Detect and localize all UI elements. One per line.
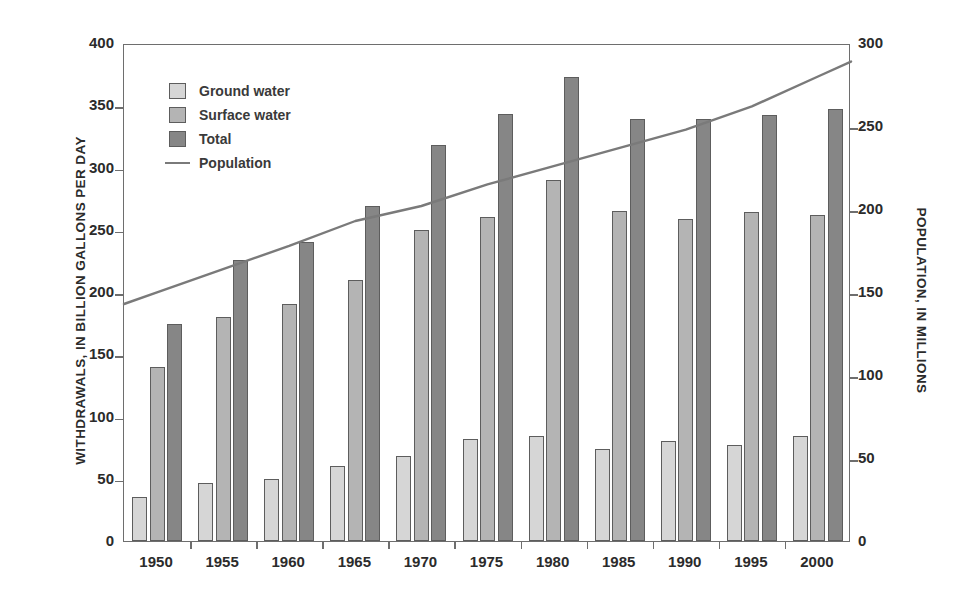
legend-label-total: Total [199,131,231,147]
y-axis-left-ticklabels: 050100150200250300350400 [68,0,114,602]
legend-item-surface-water: Surface water [169,105,291,125]
y-axis-left-tick-200: 200 [68,283,114,300]
y-axis-left-tick-300: 300 [68,159,114,176]
x-axis-tick-2000: 2000 [777,553,857,570]
y-axis-right-tick-200: 200 [858,200,904,217]
x-axis-tickmark [454,541,456,549]
y-axis-left-tickmark [115,356,124,358]
legend-swatch-total-icon [169,131,186,147]
y-axis-right-tick-250: 250 [858,117,904,134]
y-axis-right-tickmark [849,128,858,130]
y-axis-right-tickmark [849,377,858,379]
legend-item-ground-water: Ground water [169,81,291,101]
chart-legend: Ground water Surface water Total Populat… [169,81,291,173]
legend-item-total: Total [169,129,291,149]
legend-swatch-ground-water-icon [169,83,186,99]
x-axis-tickmark [388,541,390,549]
legend-label-population: Population [199,155,271,171]
legend-line-population-icon [169,155,186,171]
y-axis-left-tick-350: 350 [68,96,114,113]
y-axis-left-tick-50: 50 [68,470,114,487]
x-axis-tickmark [190,541,192,549]
legend-label-surface-water: Surface water [199,107,291,123]
y-axis-left-tickmark [115,419,124,421]
x-axis-tickmark [322,541,324,549]
y-axis-right-title: POPULATION, IN MILLIONS [914,66,929,536]
y-axis-left-tickmark [115,294,124,296]
y-axis-left-tickmark [115,232,124,234]
y-axis-right-tickmark [849,294,858,296]
y-axis-left-tickmark [115,107,124,109]
legend-label-ground-water: Ground water [199,83,290,99]
plot-area: Ground water Surface water Total Populat… [123,44,850,542]
y-axis-right-tick-300: 300 [858,34,904,51]
y-axis-right-tick-150: 150 [858,283,904,300]
legend-item-population: Population [169,153,291,173]
y-axis-left-tick-100: 100 [68,408,114,425]
x-axis-tickmark [587,541,589,549]
y-axis-left-tickmark [115,481,124,483]
y-axis-right-ticklabels: 050100150200250300 [858,0,904,602]
y-axis-right-tick-100: 100 [858,366,904,383]
x-axis-tickmark [785,541,787,549]
y-axis-left-tick-0: 0 [68,532,114,549]
y-axis-right-tickmark [849,460,858,462]
x-axis-tickmark [719,541,721,549]
y-axis-right-tickmark [849,211,858,213]
x-axis-tickmark [521,541,523,549]
x-axis-tickmark [653,541,655,549]
y-axis-left-tickmark [115,170,124,172]
y-axis-left-tick-250: 250 [68,221,114,238]
y-axis-left-tick-150: 150 [68,345,114,362]
legend-swatch-surface-water-icon [169,107,186,123]
x-axis-ticklabels: 1950195519601965197019751980198519901995… [123,553,850,577]
y-axis-right-tick-50: 50 [858,449,904,466]
y-axis-left-tick-400: 400 [68,34,114,51]
chart-figure: WITHDRAWALS, IN BILLION GALLONS PER DAY … [0,0,955,602]
x-axis-tickmark [256,541,258,549]
y-axis-right-tick-0: 0 [858,532,904,549]
